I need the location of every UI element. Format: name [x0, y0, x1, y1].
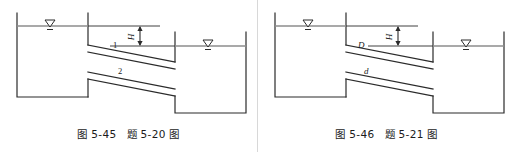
upstream-water-level-symbol — [45, 20, 55, 30]
pipe-2-bottom-edge — [88, 79, 175, 96]
figure-5-46-caption: 图 5-46 题 5-21 图 — [258, 126, 515, 141]
downstream-water-level-symbol — [461, 40, 471, 50]
pipe-label-D: D — [357, 40, 365, 50]
pipe-label-d: d — [364, 66, 369, 76]
pipe-D-bottom-edge — [346, 52, 433, 69]
figure-5-45: H 1 2 图 5-45 题 5-20 图 — [0, 0, 257, 152]
figure-5-46: H D d 图 5-46 题 5-21 图 — [258, 0, 515, 152]
figure-5-45-drawing: H 1 2 — [0, 0, 257, 124]
pipe-label-1: 1 — [113, 40, 117, 50]
pipe-label-2: 2 — [118, 66, 122, 76]
pipe-d-top-edge — [346, 72, 433, 89]
pipe-d-bottom-edge — [346, 79, 433, 96]
figure-sheet: H 1 2 图 5-45 题 5-20 图 — [0, 0, 515, 152]
figure-5-45-caption: 图 5-45 题 5-20 图 — [0, 126, 257, 141]
head-dimension-arrow — [137, 26, 142, 46]
pipe-1-top-edge — [88, 45, 175, 62]
figure-5-46-drawing: H D d — [258, 0, 515, 124]
head-dimension-arrow — [395, 26, 400, 46]
downstream-water-level-symbol — [203, 40, 213, 50]
upstream-water-level-symbol — [303, 20, 313, 30]
head-label-H: H — [384, 33, 394, 41]
pipe-2-top-edge — [88, 72, 175, 89]
head-label-H: H — [126, 33, 136, 41]
pipe-1-bottom-edge — [88, 52, 175, 69]
